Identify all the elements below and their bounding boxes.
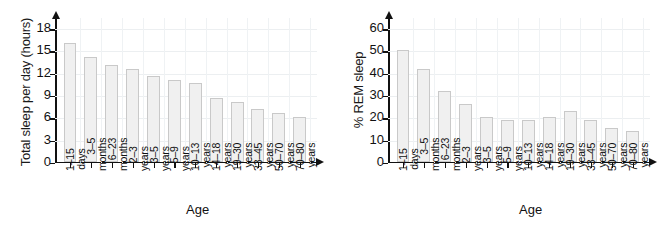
x-tick-label: 3–5years [482,146,503,171]
x-tick-label-line1: 6–23 [106,138,118,161]
x-tick-label-line2: years [305,143,316,171]
x-tick-label-line2: years [638,143,649,171]
x-tick-label-line1: 2–3 [460,146,472,163]
x-tick-label-line1: 50–70 [273,143,285,171]
x-tick-label-line1: 50–70 [606,143,618,171]
x-tick-label: 50–70years [607,143,628,171]
x-gridline [497,18,498,163]
x-gridline [247,18,248,163]
y-tick-label: 0 [377,154,384,169]
x-tick-label-line1: 3–5 [148,146,160,163]
x-gridline [227,18,228,163]
y-axis-title: Total sleep per day (hours) [18,12,33,172]
y-tick-label: 60 [370,20,384,35]
y-gridline [388,29,650,30]
x-tick-label-line1: 70–80 [627,143,639,171]
x-tick-label: 5–9years [169,146,190,171]
x-gridline [80,18,81,163]
x-tick-label: 1–15days [398,148,419,171]
x-tick-label: 33–45years [586,143,607,171]
y-gridline [388,51,650,52]
x-gridline [643,18,644,163]
bar [64,43,77,162]
x-tick-label: 19–30years [565,143,586,171]
x-tick-label-line1: 2–3 [127,146,139,163]
x-gridline [476,18,477,163]
x-axis-title: Age [186,202,209,217]
x-gridline [518,18,519,163]
x-tick-label: 70–80years [628,143,649,171]
x-gridline [164,18,165,163]
x-tick-label: 5–9years [502,146,523,171]
chart-panel-total-sleep: Total sleep per day (hours) 0369121518 A… [0,0,334,231]
x-gridline [622,18,623,163]
two-panel-bar-chart-figure: Total sleep per day (hours) 0369121518 A… [0,0,667,231]
x-gridline [539,18,540,163]
x-gridline [601,18,602,163]
x-tick-label: 19–30years [232,143,253,171]
x-tick-label: 33–45years [253,143,274,171]
x-tick-label: 3–5months [86,138,107,171]
y-tick-label: 50 [370,42,384,57]
x-gridline [560,18,561,163]
x-tick-label: 3–5months [419,138,440,171]
x-tick-label: 6–23months [440,138,461,171]
chart-panel-rem-sleep: % REM sleep 0102030405060 Age 1–15days3–… [333,0,667,231]
x-tick-label: 70–80years [295,143,316,171]
y-tick-label: 9 [44,87,51,102]
x-gridline [580,18,581,163]
y-tick-label: 0 [44,154,51,169]
x-tick-label: 2–3years [128,146,149,171]
x-tick-label: 2–3years [461,146,482,171]
x-axis-title: Age [519,202,542,217]
y-tick-label: 6 [44,109,51,124]
y-tick-label: 30 [370,87,384,102]
y-tick-label: 18 [37,20,51,35]
y-axis-title: % REM sleep [351,30,366,150]
x-tick-label-line1: 70–80 [294,143,306,171]
x-gridline [310,18,311,163]
x-gridline [413,18,414,163]
x-tick-label: 10–13years [190,143,211,171]
y-tick-label: 10 [370,132,384,147]
y-tick-label: 40 [370,65,384,80]
x-gridline [268,18,269,163]
y-gridline [55,51,317,52]
y-tick-label: 15 [37,42,51,57]
x-tick-label-line1: 3–5 [481,146,493,163]
x-tick-label: 6–23months [107,138,128,171]
x-gridline [185,18,186,163]
x-tick-label: 1–15days [65,148,86,171]
x-tick-label-line1: 6–23 [439,138,451,161]
x-gridline [206,18,207,163]
x-tick-label: 14–18years [544,143,565,171]
y-gridline [55,29,317,30]
x-tick-label: 50–70years [274,143,295,171]
x-gridline [143,18,144,163]
x-tick-label: 10–13years [523,143,544,171]
bar [397,50,410,162]
x-gridline [289,18,290,163]
y-tick-label: 12 [37,65,51,80]
x-tick-label: 3–5years [149,146,170,171]
y-tick-label: 3 [44,132,51,147]
x-tick-label: 14–18years [211,143,232,171]
y-tick-label: 20 [370,109,384,124]
